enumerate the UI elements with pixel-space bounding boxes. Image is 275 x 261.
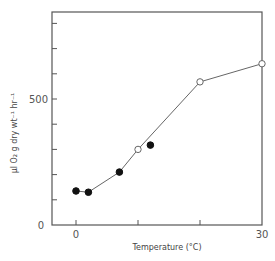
y-tick-label-0: 0 xyxy=(38,220,44,231)
y-axis-ticks xyxy=(52,23,57,199)
chart: 0 500 0 30 Temperature (°C) µl O₂ g dry … xyxy=(0,0,275,261)
filled-circle-marker xyxy=(116,169,123,176)
x-tick-label-0: 0 xyxy=(73,229,79,240)
data-line xyxy=(76,64,262,193)
open-circle-marker xyxy=(135,146,141,152)
filled-circle-marker xyxy=(147,142,154,149)
plot-border xyxy=(52,12,262,225)
open-circle-marker xyxy=(259,61,265,67)
x-tick-label-30: 30 xyxy=(256,229,269,240)
y-tick-label-500: 500 xyxy=(29,94,48,105)
filled-circle-marker xyxy=(85,189,92,196)
data-markers xyxy=(73,61,265,196)
connecting-line xyxy=(76,64,262,193)
y-axis-title: µl O₂ g dry wt⁻¹ hr⁻¹ xyxy=(10,93,19,174)
open-circle-marker xyxy=(197,79,203,85)
x-axis-ticks xyxy=(76,220,200,225)
x-axis-title: Temperature (°C) xyxy=(131,243,201,252)
plot-frame xyxy=(52,12,262,225)
filled-circle-marker xyxy=(73,188,80,195)
